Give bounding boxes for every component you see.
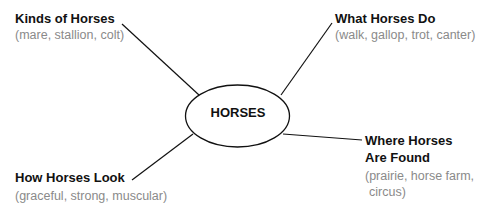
branch-title: What Horses Do [335,10,475,27]
branch-title-line1: Where Horses [365,132,474,149]
branch-details: (graceful, strong, muscular) [15,188,167,204]
branch-title: How Horses Look [15,169,167,186]
branch-where-horses-are-found: Where Horses Are Found (prairie, horse f… [365,132,474,200]
branch-title: Kinds of Horses [15,10,124,27]
branch-details: (walk, gallop, trot, canter) [335,27,475,43]
branch-details: (mare, stallion, colt) [15,27,124,43]
branch-how-horses-look: How Horses Look (graceful, strong, muscu… [15,169,167,204]
line-what-do [281,23,332,95]
branch-what-horses-do: What Horses Do (walk, gallop, trot, cant… [335,10,475,43]
branch-kinds-of-horses: Kinds of Horses (mare, stallion, colt) [15,10,124,43]
line-kinds [122,24,199,95]
branch-title-line2: Are Found [365,149,474,166]
center-topic: HORSES [185,105,291,120]
branch-details-line1: (prairie, horse farm, [365,168,474,184]
branch-details-line2: circus) [365,184,474,200]
line-where-found [283,134,362,140]
